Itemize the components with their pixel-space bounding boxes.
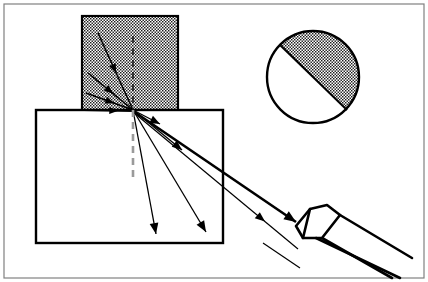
detector-tail-top-edge [340,215,412,258]
exit-ray-thin-below-detector-arrowhead [255,212,265,221]
figure-root [0,0,428,282]
incident-ray-4-line [84,110,133,111]
exit-ray-thick-to-detector-arrowhead [283,211,296,222]
detector-tip-outline [296,205,340,238]
magnified-inset-circle [267,31,359,123]
substrate-block [36,110,223,243]
ray-diagram-svg [0,0,428,282]
upper-medium-block [82,16,178,110]
